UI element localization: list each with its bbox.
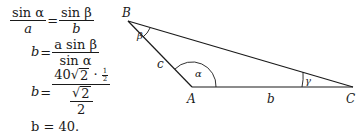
angle-gamma-arc [302,72,303,87]
vertex-label-c: C [346,92,355,106]
vertex-label-a: A [186,92,196,106]
angle-label-beta: β [136,30,143,41]
side-a [128,21,353,87]
angle-beta-arc [143,28,150,37]
angle-label-alpha: α [195,68,202,79]
triangle-diagram: B A C b c α β γ [0,0,358,139]
side-label-b: b [267,92,275,106]
vertex-label-b: B [121,6,131,20]
angle-label-gamma: γ [305,75,311,86]
side-label-c: c [157,57,164,71]
